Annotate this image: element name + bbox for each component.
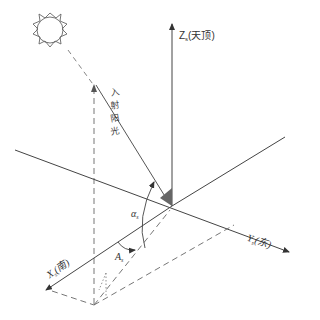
x-axis <box>46 206 172 290</box>
incident-ray-label: 入 射 阳 光 <box>110 85 120 137</box>
altitude-subscript: s <box>136 214 138 220</box>
azimuth-arc <box>118 242 135 250</box>
ray-char: 射 <box>109 97 121 112</box>
ray-char: 阳 <box>109 110 121 125</box>
ground-projection-line <box>94 210 170 305</box>
ground-y-dashed <box>94 225 234 305</box>
azimuth-subscript: s <box>121 257 123 263</box>
azimuth-angle-label: As <box>115 252 123 263</box>
x-axis-extension <box>172 137 285 206</box>
ground-x-dashed <box>52 291 94 305</box>
altitude-angle-label: αs <box>131 209 139 220</box>
z-axis-text: (天顶) <box>188 30 215 41</box>
sun-ray-dashed <box>68 50 95 87</box>
incident-ray <box>96 85 166 198</box>
ray-char: 光 <box>109 123 121 138</box>
sun-icon <box>33 13 67 47</box>
ray-char: 入 <box>109 84 121 99</box>
z-axis-label: Zs(天顶) <box>179 31 215 42</box>
small-dotted-diag <box>99 273 106 290</box>
